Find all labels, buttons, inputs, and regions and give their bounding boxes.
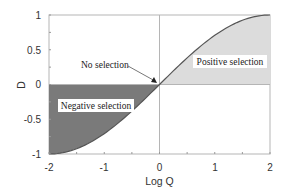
x-axis-title: Log Q <box>145 175 174 187</box>
y-tick-label: 0.5 <box>27 45 41 56</box>
negative-selection-region <box>49 85 160 155</box>
arrowhead-icon <box>151 77 157 83</box>
x-tick-label: -1 <box>100 162 109 173</box>
x-tick-label: 2 <box>267 162 273 173</box>
x-tick-label: 1 <box>212 162 218 173</box>
selection-chart: 1 0.5 0 -0.5 -1 -2 -1 0 1 2 Log Q D Posi… <box>0 0 286 195</box>
positive-selection-region <box>160 15 271 85</box>
no-selection-arrow-line <box>128 66 155 81</box>
negative-selection-label: Negative selection <box>61 101 132 111</box>
y-tick-label: -1 <box>32 149 41 160</box>
y-tick-label: -0.5 <box>24 114 42 125</box>
y-tick-label: 0 <box>35 79 41 90</box>
positive-selection-label: Positive selection <box>197 57 264 67</box>
x-tick-label: -2 <box>45 162 54 173</box>
y-axis-title: D <box>15 81 27 89</box>
x-tick-label: 0 <box>157 162 163 173</box>
no-selection-label: No selection <box>81 60 129 70</box>
y-tick-label: 1 <box>35 10 41 21</box>
